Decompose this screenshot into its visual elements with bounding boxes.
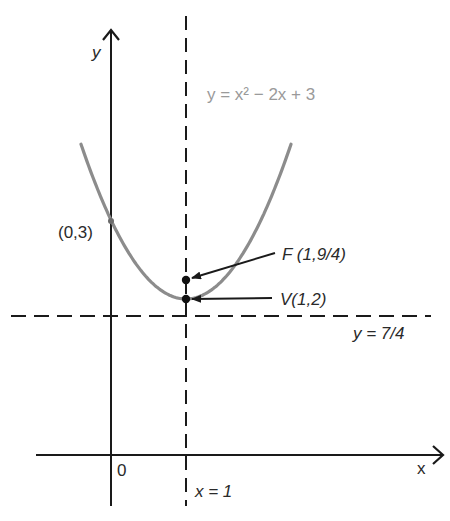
parabola-diagram: y x 0 y = x² − 2x + 3 (0,3) F (1,9/4) V(… xyxy=(0,0,450,521)
focus-point xyxy=(182,276,190,284)
y-axis-label: y xyxy=(91,43,102,62)
vertex-label: V(1,2) xyxy=(280,290,326,309)
origin-label: 0 xyxy=(117,461,126,480)
vertex-pointer-arrow xyxy=(192,298,272,299)
directrix-label: y = 7/4 xyxy=(352,324,405,343)
focus-pointer-arrow xyxy=(192,253,275,278)
vertex-point xyxy=(182,295,190,303)
focus-label: F (1,9/4) xyxy=(282,245,346,264)
axis-of-symmetry-label: x = 1 xyxy=(194,482,232,501)
equation-label: y = x² − 2x + 3 xyxy=(207,85,315,104)
y-intercept-point xyxy=(108,218,114,224)
x-axis-label: x xyxy=(417,459,426,478)
x-axis xyxy=(36,446,443,464)
y-axis xyxy=(103,30,119,506)
y-intercept-label: (0,3) xyxy=(58,223,93,242)
